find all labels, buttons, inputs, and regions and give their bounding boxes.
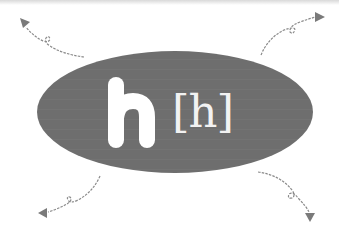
- arrowhead-bottom-left-icon: [38, 208, 47, 218]
- diagram-canvas: [0, 0, 339, 231]
- arrow-top-left: [26, 27, 84, 57]
- arrow-top-right: [261, 17, 316, 55]
- phoneme-notation: [h]: [172, 82, 233, 142]
- arrowhead-top-left-icon: [20, 18, 30, 28]
- arrow-bottom-left: [48, 176, 100, 212]
- arrowhead-bottom-right-icon: [305, 213, 315, 222]
- arrowhead-top-right-icon: [315, 12, 325, 22]
- arrow-bottom-right: [258, 172, 309, 212]
